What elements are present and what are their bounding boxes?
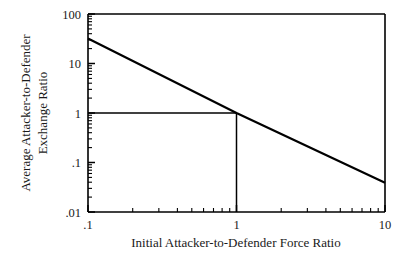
x-tick-label: 1	[233, 218, 239, 232]
y-tick-label: 10	[69, 57, 82, 71]
y-axis-title-line1: Average Attacker-to-Defender	[18, 34, 33, 192]
y-tick-label: 100	[62, 8, 81, 22]
chart-figure: 100101.1.01 .1110 Average Attacker-to-De…	[0, 0, 406, 257]
y-tick-label: 1	[75, 107, 81, 121]
y-axis-title-line2: Exchange Ratio	[35, 72, 50, 155]
y-tick-label: .1	[72, 156, 81, 170]
x-tick-label: .1	[83, 218, 92, 232]
x-axis-title: Initial Attacker-to-Defender Force Ratio	[131, 235, 340, 250]
x-tick-label: 10	[379, 218, 392, 232]
log-log-chart: 100101.1.01 .1110 Average Attacker-to-De…	[0, 0, 406, 257]
chart-background	[0, 0, 406, 257]
y-tick-label: .01	[65, 206, 81, 220]
